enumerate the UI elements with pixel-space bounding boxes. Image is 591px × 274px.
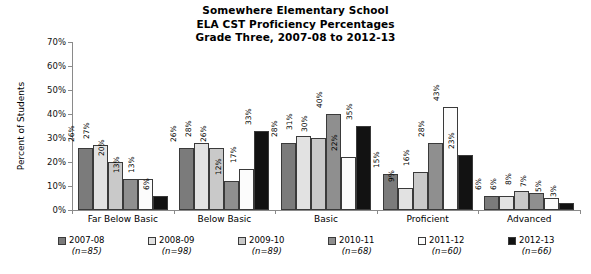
bar-group-bars: 26%27%20%13%13%6%	[72, 42, 174, 210]
x-axis-category-label: Far Below Basic	[72, 214, 174, 224]
x-axis-category-label: Below Basic	[174, 214, 276, 224]
bar[interactable]: 26%	[78, 148, 93, 210]
bar[interactable]: 28%	[428, 143, 443, 210]
bar-group: 28%31%30%40%22%35%	[275, 42, 377, 210]
legend-item[interactable]: 2010-11(n=68)	[328, 235, 378, 257]
legend-item[interactable]: 2012-13(n=66)	[508, 235, 558, 257]
legend-label: 2010-11(n=68)	[339, 235, 375, 257]
legend-sample-size: (n=68)	[339, 246, 375, 257]
legend-item[interactable]: 2009-10(n=89)	[238, 235, 288, 257]
plot-area: 70%60%50%40%30%20%10%0%26%27%20%13%13%6%…	[72, 42, 580, 210]
bar-value-label: 30%	[308, 122, 317, 139]
chart-container: Somewhere Elementary School ELA CST Prof…	[0, 0, 591, 274]
bar[interactable]: 12%	[224, 181, 239, 210]
x-axis-category-label: Proficient	[377, 214, 479, 224]
legend-sample-size: (n=89)	[249, 246, 285, 257]
x-axis-category-label: Advanced	[478, 214, 580, 224]
chart-legend: 2007-08(n=85)2008-09(n=98)2009-10(n=89)2…	[58, 235, 558, 257]
bar[interactable]: 35%	[356, 126, 371, 210]
legend-swatch	[58, 237, 66, 245]
bar-value-label: 35%	[353, 110, 362, 127]
bar[interactable]: 43%	[443, 107, 458, 210]
legend-swatch	[148, 237, 156, 245]
legend-swatch	[328, 237, 336, 245]
bar-value-label: 28%	[425, 127, 434, 144]
bar[interactable]: 13%	[123, 179, 138, 210]
bar[interactable]: 30%	[311, 138, 326, 210]
chart-title-line-2: ELA CST Proficiency Percentages	[0, 18, 591, 32]
bar-value-label: 17%	[237, 154, 246, 171]
x-axis-tick-mark	[580, 210, 581, 214]
chart-title: Somewhere Elementary School ELA CST Prof…	[0, 4, 591, 45]
legend-item[interactable]: 2011-12(n=60)	[418, 235, 468, 257]
bar-value-label: 12%	[222, 166, 231, 183]
bar-group: 26%27%20%13%13%6%	[72, 42, 174, 210]
bar-group-bars: 26%28%26%12%17%33%	[174, 42, 276, 210]
legend-item[interactable]: 2008-09(n=98)	[148, 235, 198, 257]
bar[interactable]: 6%	[153, 196, 168, 210]
legend-item[interactable]: 2007-08(n=85)	[58, 235, 108, 257]
bar[interactable]: 6%	[499, 196, 514, 210]
bar[interactable]: 17%	[239, 169, 254, 210]
bar[interactable]: 28%	[194, 143, 209, 210]
bar-value-label: 6%	[150, 185, 159, 197]
legend-sample-size: (n=60)	[429, 246, 465, 257]
bar[interactable]: 6%	[484, 196, 499, 210]
bar-group: 15%9%16%28%43%23%	[377, 42, 479, 210]
bar[interactable]: 26%	[179, 148, 194, 210]
legend-label: 2012-13(n=66)	[519, 235, 555, 257]
bar[interactable]: 9%	[398, 188, 413, 210]
legend-sample-size: (n=66)	[519, 246, 555, 257]
bar[interactable]: 3%	[559, 203, 574, 210]
bar[interactable]: 40%	[326, 114, 341, 210]
bar[interactable]: 16%	[413, 172, 428, 210]
bar-value-label: 26%	[207, 132, 216, 149]
bar[interactable]: 23%	[458, 155, 473, 210]
bar-value-label: 6%	[497, 185, 506, 197]
legend-swatch	[238, 237, 246, 245]
bar[interactable]: 33%	[254, 131, 269, 210]
bar-value-label: 33%	[252, 115, 261, 132]
bar-value-label: 43%	[440, 91, 449, 108]
x-axis-category-label: Basic	[275, 214, 377, 224]
bar[interactable]: 28%	[281, 143, 296, 210]
bar-value-label: 22%	[338, 142, 347, 159]
bar-value-label: 23%	[455, 139, 464, 156]
bar-value-label: 16%	[410, 156, 419, 173]
legend-label: 2009-10(n=89)	[249, 235, 285, 257]
legend-swatch	[418, 237, 426, 245]
bar-group-bars: 15%9%16%28%43%23%	[377, 42, 479, 210]
legend-label: 2011-12(n=60)	[429, 235, 465, 257]
bar-value-label: 9%	[395, 178, 404, 190]
x-axis-line	[72, 210, 581, 211]
bar[interactable]: 22%	[341, 157, 356, 210]
bar-value-label: 3%	[557, 192, 566, 204]
legend-swatch	[508, 237, 516, 245]
y-axis-title: Percent of Students	[14, 42, 28, 210]
legend-label: 2007-08(n=85)	[69, 235, 105, 257]
bar[interactable]: 31%	[296, 136, 311, 210]
legend-sample-size: (n=85)	[69, 246, 105, 257]
chart-title-line-1: Somewhere Elementary School	[0, 4, 591, 18]
bar-value-label: 40%	[323, 98, 332, 115]
bar-group: 26%28%26%12%17%33%	[174, 42, 276, 210]
bar-group-bars: 6%6%8%7%5%3%	[478, 42, 580, 210]
bar-group-bars: 28%31%30%40%22%35%	[275, 42, 377, 210]
bar-group: 6%6%8%7%5%3%	[478, 42, 580, 210]
legend-sample-size: (n=98)	[159, 246, 195, 257]
legend-label: 2008-09(n=98)	[159, 235, 195, 257]
